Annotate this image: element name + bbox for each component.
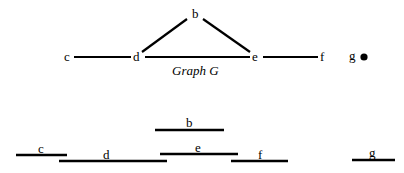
diagram-canvas: b c d e f g Graph G b c d e f g [0, 0, 404, 173]
interval-label-b: b [186, 115, 193, 130]
vertex-c: c [64, 49, 70, 64]
edge-d-b [142, 19, 187, 52]
isolated-vertex-dot [360, 53, 367, 60]
interval-label-f: f [258, 147, 263, 162]
vertex-e: e [252, 49, 258, 64]
graph-caption: Graph G [172, 63, 219, 78]
interval-label-e: e [195, 140, 201, 155]
interval-label-g: g [369, 145, 376, 160]
vertex-f: f [320, 49, 325, 64]
vertex-g: g [349, 48, 356, 63]
interval-label-d: d [103, 147, 110, 162]
edge-b-e [203, 19, 250, 52]
interval-representation: b c d e f g [16, 115, 395, 162]
vertex-b: b [192, 6, 199, 21]
interval-label-c: c [38, 141, 44, 156]
graph-g: b c d e f g Graph G [64, 6, 368, 78]
vertex-d: d [133, 49, 140, 64]
